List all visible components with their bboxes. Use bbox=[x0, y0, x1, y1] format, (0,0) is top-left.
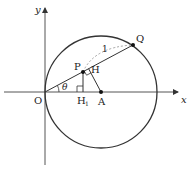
label-o: O bbox=[34, 95, 42, 106]
y-axis-label: y bbox=[34, 4, 41, 15]
label-p: P bbox=[74, 61, 81, 72]
point-q bbox=[131, 43, 135, 47]
label-theta: θ bbox=[62, 82, 68, 92]
label-q: Q bbox=[136, 33, 144, 44]
point-p bbox=[81, 70, 85, 74]
x-axis-label: x bbox=[181, 94, 187, 105]
label-h: H bbox=[91, 64, 100, 75]
label-h1-subscript: 1 bbox=[85, 100, 89, 107]
geometry-diagram: y x O A P Q H H 1 θ 1 bbox=[0, 0, 192, 173]
label-a: A bbox=[97, 96, 106, 107]
point-a bbox=[99, 90, 103, 94]
angle-theta-arc bbox=[57, 85, 59, 92]
right-angle-h1 bbox=[77, 86, 83, 92]
label-segment-length: 1 bbox=[102, 44, 108, 54]
